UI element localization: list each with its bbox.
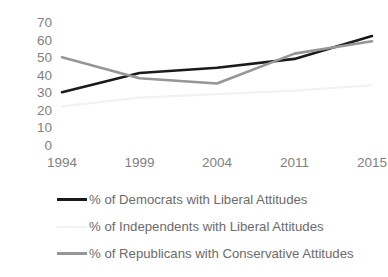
x-tick-label: 1999 [124,155,154,168]
y-tick-label: 20 [37,103,52,118]
y-tick-label: 60 [37,33,52,48]
y-tick-label: 10 [37,120,52,135]
data-series-layer [62,36,372,106]
y-axis-tick-labels: 706050403020100 [37,15,52,153]
y-tick-label: 70 [37,15,52,30]
x-axis-tick-labels: 19941999200420112015 [47,155,387,168]
chart-legend: % of Democrats with Liberal Attitudes% o… [0,186,388,267]
series-line [62,85,372,106]
legend-item-label: % of Independents with Liberal Attitudes [89,220,324,233]
y-tick-label: 50 [37,50,52,65]
legend-swatch-icon [57,198,87,201]
x-tick-label: 2004 [202,155,233,168]
legend-item[interactable]: % of Democrats with Liberal Attitudes [0,186,388,213]
legend-item-label: % of Republicans with Conservative Attit… [89,247,354,260]
legend-swatch-icon [57,226,87,228]
legend-item[interactable]: % of Republicans with Conservative Attit… [0,240,388,267]
x-tick-label: 1994 [47,155,78,168]
y-tick-label: 40 [37,68,52,83]
series-line [62,41,372,83]
legend-swatch-icon [57,252,87,255]
y-tick-label: 30 [37,85,52,100]
legend-item[interactable]: % of Independents with Liberal Attitudes [0,213,388,240]
line-chart: 706050403020100 19941999200420112015 % o… [0,0,388,277]
legend-item-label: % of Democrats with Liberal Attitudes [89,193,307,206]
plot-svg: 706050403020100 19941999200420112015 [0,0,388,168]
x-tick-label: 2015 [357,155,387,168]
x-tick-label: 2011 [280,155,309,168]
plot-area: 706050403020100 19941999200420112015 [0,0,388,168]
y-tick-label: 0 [44,138,52,153]
